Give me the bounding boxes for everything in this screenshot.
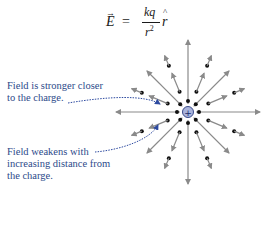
field-arrow [172, 132, 180, 150]
field-arrow [165, 56, 169, 66]
field-arrow [172, 73, 180, 91]
sample-point [194, 102, 198, 106]
field-arrow [234, 89, 244, 93]
annotation-weakens-distance: Field weakens with increasing distance f… [7, 146, 110, 182]
field-arrow [207, 158, 211, 168]
field-arrow [234, 131, 244, 135]
plus-sign-icon: + [184, 108, 192, 118]
field-arrow [149, 120, 167, 128]
sample-point [178, 118, 182, 122]
field-arrow [147, 118, 182, 153]
field-arrow [207, 56, 211, 66]
field-arrow [196, 132, 204, 150]
field-arrow [132, 131, 142, 135]
annotation-text-line: Field weakens with [7, 146, 110, 158]
field-arrow [194, 71, 229, 106]
field-arrow [196, 73, 204, 91]
annotation-text-line: the charge. [7, 170, 110, 182]
sample-point [186, 121, 190, 125]
annotation-text-line: Field is stronger closer [7, 80, 103, 92]
point-charge: + [183, 107, 194, 118]
sample-point [194, 118, 198, 122]
field-arrow [132, 89, 142, 93]
sample-point [186, 99, 190, 103]
field-arrow [149, 96, 167, 104]
annotation-stronger-closer: Field is stronger closer to the charge. [7, 80, 103, 104]
field-arrow [208, 120, 226, 128]
sample-point [178, 102, 182, 106]
sample-point [175, 110, 179, 114]
field-arrow [194, 118, 229, 153]
annotation-text-line: increasing distance from [7, 158, 110, 170]
field-arrow [165, 158, 169, 168]
sample-point [197, 110, 201, 114]
annotation-text-line: to the charge. [7, 92, 103, 104]
field-arrow [208, 96, 226, 104]
